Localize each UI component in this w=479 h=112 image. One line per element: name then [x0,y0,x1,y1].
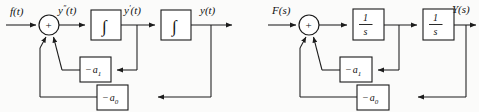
svg-text:y″(t): y″(t) [57,4,77,17]
right-block2-denominator: s [434,26,438,37]
left-output-label: y(t) [199,4,216,17]
left-a0-minus: − [102,92,109,103]
block-diagram-figure: f(t) + y″(t) ∫ y′(t) ∫ y(t) [0,0,479,112]
left-signal-yp-label: y′(t) [123,4,141,17]
svg-text:y′(t): y′(t) [123,4,141,17]
left-a1-minus: − [85,64,92,75]
left-ypp-arg: (t) [66,4,77,17]
left-signal-ypp-label: y″(t) [57,4,77,17]
right-summing-plus-sign: + [306,19,312,31]
right-block2-numerator: 1 [433,12,438,23]
left-yp-arg: (t) [131,4,142,17]
left-a0-subscript: 0 [115,98,119,106]
right-a1-minus: − [345,64,352,75]
right-input-label: F(s) [271,4,291,17]
left-input-label: f(t) [10,5,24,18]
right-block1-numerator: 1 [363,12,368,23]
left-a1-subscript: 1 [98,70,102,78]
left-summing-plus-sign: + [46,19,52,31]
right-a0-subscript: 0 [375,98,379,106]
figure-background [0,0,479,112]
right-output-label: Y(s) [452,3,470,16]
right-a1-subscript: 1 [358,70,362,78]
right-block1-denominator: s [364,26,368,37]
right-a0-minus: − [362,92,369,103]
